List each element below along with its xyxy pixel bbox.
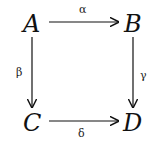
label-delta: δ bbox=[78, 128, 85, 139]
node-c: C bbox=[23, 111, 41, 135]
node-d: D bbox=[123, 111, 142, 135]
node-b: B bbox=[124, 12, 142, 36]
node-a: A bbox=[23, 12, 40, 36]
label-gamma: γ bbox=[140, 70, 147, 81]
label-beta: β bbox=[16, 67, 22, 78]
label-alpha: α bbox=[79, 4, 86, 15]
